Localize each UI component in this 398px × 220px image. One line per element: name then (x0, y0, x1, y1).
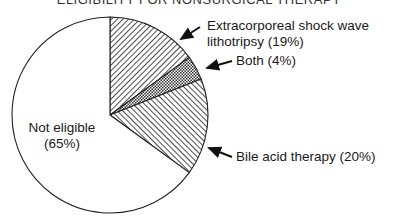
slice-label: (65%) (44, 136, 80, 151)
label-arrow (209, 148, 232, 157)
slice-label: Not eligible (29, 120, 96, 135)
slice-label: lithotripsy (19%) (207, 34, 304, 49)
slice-label: Bile acid therapy (20%) (236, 149, 376, 164)
slice-label: Both (4%) (236, 53, 296, 68)
slice-label: Extracorporeal shock wave (207, 18, 369, 33)
label-arrow (207, 61, 232, 68)
label-arrow (181, 27, 200, 39)
pie-chart: Extracorporeal shock wavelithotripsy (19… (0, 0, 398, 220)
